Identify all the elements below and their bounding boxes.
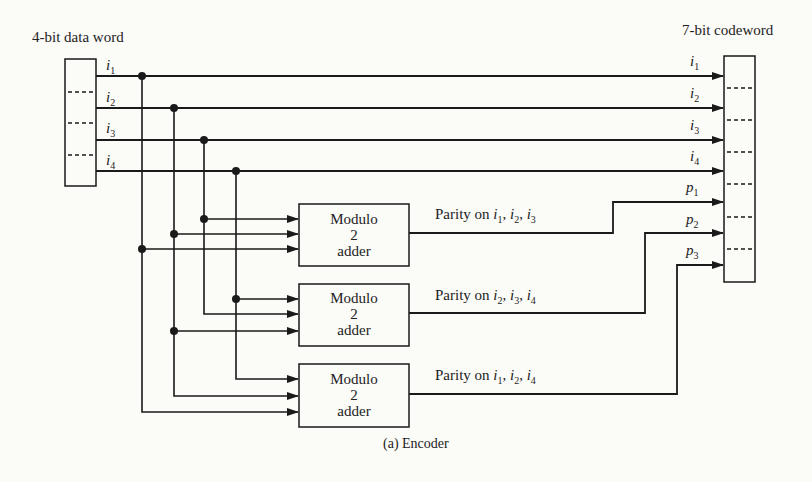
svg-text:Modulo: Modulo xyxy=(330,290,378,306)
output-bit-label: p3 xyxy=(685,242,699,261)
output-bit-label: p1 xyxy=(685,179,699,198)
svg-text:Modulo: Modulo xyxy=(330,371,378,387)
svg-text:adder: adder xyxy=(337,243,370,259)
svg-text:adder: adder xyxy=(337,403,370,419)
svg-text:2: 2 xyxy=(350,306,358,322)
tap-lines xyxy=(142,76,298,412)
svg-text:Modulo: Modulo xyxy=(330,211,378,227)
svg-text:2: 2 xyxy=(350,387,358,403)
svg-text:2: 2 xyxy=(350,227,358,243)
data-lines xyxy=(96,76,723,171)
output-title: 7-bit codeword xyxy=(682,22,774,38)
figure-caption: (a) Encoder xyxy=(383,436,449,452)
input-bit-label: i1 xyxy=(106,57,115,76)
output-bit-label: p2 xyxy=(685,211,699,230)
output-bit-label: i2 xyxy=(690,85,699,104)
input-bit-label: i3 xyxy=(106,120,115,139)
modulo-2-adder-1: Modulo 2 adder xyxy=(299,204,409,266)
input-bit-labels: i1 i2 i3 i4 xyxy=(106,57,115,171)
input-title: 4-bit data word xyxy=(32,29,124,45)
modulo-2-adder-2: Modulo 2 adder xyxy=(299,284,409,346)
output-bit-label: i1 xyxy=(690,53,699,72)
data-word-register xyxy=(65,59,96,186)
encoder-diagram: 4-bit data word 7-bit codeword i1 i2 i3 … xyxy=(0,0,812,482)
output-bit-label: i3 xyxy=(690,117,699,136)
svg-text:adder: adder xyxy=(337,322,370,338)
input-bit-label: i4 xyxy=(106,152,115,171)
input-bit-label: i2 xyxy=(106,89,115,108)
modulo-2-adder-3: Modulo 2 adder xyxy=(299,364,409,427)
parity-label-2: Parity on i2, i3, i4 xyxy=(435,287,536,306)
parity-label-3: Parity on i1, i2, i4 xyxy=(435,367,536,386)
codeword-register xyxy=(724,56,755,282)
parity-label-1: Parity on i1, i2, i3 xyxy=(435,206,536,225)
junction-dots xyxy=(138,72,240,335)
output-bit-label: i4 xyxy=(690,148,699,167)
output-bit-labels: i1 i2 i3 i4 p1 p2 p3 xyxy=(685,53,699,261)
